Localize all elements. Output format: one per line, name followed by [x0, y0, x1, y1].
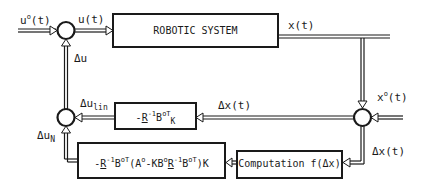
- dx-upper-label: Δx(t): [218, 100, 251, 111]
- du-feedback-line: [62, 39, 71, 109]
- dx-to-computation-line: [343, 126, 364, 167]
- x-output-line: [278, 35, 390, 108]
- u-label: u(t): [78, 14, 105, 25]
- du-lin-label: Δulin: [80, 98, 108, 112]
- du-label: Δu: [74, 53, 87, 64]
- dx-lower-label: Δx(t): [372, 146, 405, 157]
- x-label: x(t): [288, 20, 315, 31]
- linear-gain-label: -R-1BoTK: [115, 111, 196, 126]
- u0-label: uo(t): [20, 14, 51, 26]
- computation-label: Computation f(Δx): [237, 159, 342, 169]
- du-n-label: ΔuN: [37, 130, 55, 144]
- u-signal-line: [75, 26, 114, 35]
- computation-to-nonlinear-line: [226, 158, 237, 167]
- summing-junction-x: [354, 109, 371, 126]
- robotic-system-label: ROBOTIC SYSTEM: [113, 26, 278, 36]
- u0-input-line: [18, 26, 57, 35]
- dx-to-linear-gain-line: [196, 113, 354, 122]
- summing-junction-u: [58, 22, 75, 39]
- du-n-line: [62, 126, 79, 162]
- du-lin-line: [75, 113, 115, 122]
- x0-input-line: [371, 113, 403, 122]
- summing-junction-du: [58, 109, 75, 126]
- nonlinear-gain-label: -R-1BoT(Ao-KBoR-1BoT)K: [78, 157, 225, 169]
- x0-label: xo(t): [377, 91, 408, 103]
